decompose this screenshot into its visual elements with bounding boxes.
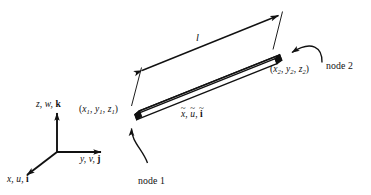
x-axis-label: x, u, i (7, 175, 29, 185)
node1-coord-z-sub: 1 (111, 108, 114, 115)
local-axis-i-accent: ~ (199, 104, 204, 113)
z-axis-label-disp: w, (45, 99, 53, 109)
global-axes-triad (27, 113, 101, 175)
node1-coord-close: ) (115, 104, 118, 114)
node2-coord-y-sub: 2 (290, 68, 293, 75)
x-axis-line (27, 152, 57, 175)
local-axis-u-accent: ~ (190, 104, 195, 113)
bar-element-figure: z, w, k y, v, j x, u, i (x1, y1, z1) (x2… (0, 0, 371, 195)
node1-coord-y-sub: 1 (99, 108, 102, 115)
length-label-text: l (196, 32, 199, 43)
node1-leader-line (132, 129, 148, 164)
local-axis-x-tilde: ~x (181, 110, 185, 120)
local-axis-x-accent: ~ (181, 104, 186, 113)
extension-line-node1 (132, 68, 142, 107)
node1-coordinate-label: (x1, y1, z1) (79, 105, 118, 115)
node2-leader-line (292, 46, 322, 62)
x-axis-label-vector: i (26, 174, 29, 184)
length-label: l (196, 33, 199, 44)
node2-coord-z-sub: 2 (302, 68, 305, 75)
z-axis-label-coord: z, (36, 99, 42, 109)
node1-coord-x: x (82, 104, 86, 114)
bar-side-face (135, 59, 277, 120)
dimension-line (142, 16, 279, 71)
y-axis-label-vector: j (97, 154, 100, 164)
node1-coord-x-sub: 1 (87, 108, 90, 115)
local-axis-u-tilde: ~u (190, 110, 195, 120)
local-axis-label: ~x, ~u, ~i (181, 110, 203, 120)
node2-coordinate-label: (x2, y2, z2) (270, 65, 309, 75)
y-axis-label: y, v, j (80, 155, 101, 165)
y-axis-label-disp: v, (89, 154, 95, 164)
node2-coord-x-sub: 2 (278, 68, 281, 75)
x-axis-label-disp: u, (16, 174, 23, 184)
figure-vector-graphics (0, 0, 371, 195)
y-axis-label-coord: y, (80, 154, 86, 164)
node1-callout-label: node 1 (138, 176, 165, 186)
z-axis-label: z, w, k (36, 100, 61, 110)
node2-callout-label: node 2 (326, 61, 353, 71)
node2-coord-close: ) (306, 64, 309, 74)
node2-coord-x: x (273, 64, 277, 74)
z-axis-label-vector: k (55, 99, 60, 109)
x-axis-label-coord: x, (7, 174, 14, 184)
local-axis-i-tilde: ~i (200, 110, 203, 120)
